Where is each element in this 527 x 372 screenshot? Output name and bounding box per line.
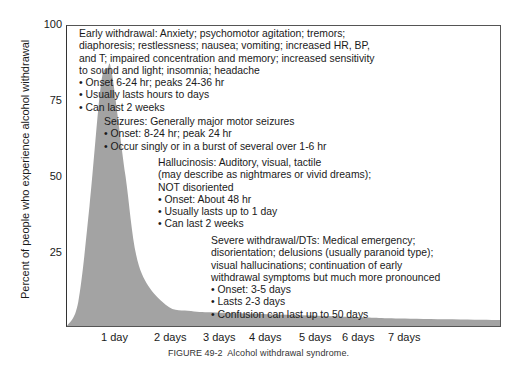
annotation-line: Early withdrawal: Anxiety; psychomotor a… (79, 28, 375, 40)
x-tick-3-days: 3 days (203, 331, 235, 343)
x-tick-7-days: 7 days (388, 331, 420, 343)
annotation-early-withdrawal: Early withdrawal: Anxiety; psychomotor a… (79, 28, 375, 114)
annotation-line: • Can last 2 weeks (79, 102, 375, 114)
x-tick-4-days: 4 days (249, 331, 281, 343)
annotation-hallucinosis: Hallucinosis: Auditory, visual, tactile … (158, 157, 371, 231)
annotation-line: • Onset 6-24 hr; peaks 24-36 hr (79, 77, 375, 89)
x-tick-6-days: 6 days (342, 331, 374, 343)
annotation-line: and T; impaired concentration and memory… (79, 53, 375, 65)
annotation-line: • Confusion can last up to 50 days (211, 309, 440, 321)
y-tick-100: 100 (40, 18, 62, 30)
annotation-line: • Occur singly or in a burst of several … (104, 141, 327, 153)
annotation-line: • Onset: 3-5 days (211, 284, 440, 296)
annotation-seizures: Seizures: Generally major motor seizures… (104, 116, 327, 153)
annotation-line: • Can last 2 weeks (158, 218, 371, 230)
x-tick-5-days: 5 days (299, 331, 331, 343)
annotation-line: visual hallucinations; continuation of e… (211, 260, 440, 272)
annotation-line: disorientation; delusions (usually paran… (211, 247, 440, 259)
annotation-line: • Onset: About 48 hr (158, 194, 371, 206)
annotation-line: • Usually lasts hours to days (79, 89, 375, 101)
x-tick-2-days: 2 days (154, 331, 186, 343)
annotation-line: NOT disoriented (158, 182, 371, 194)
figure-label: FIGURE 49-2 (168, 348, 223, 358)
annotation-line: • Onset: 8-24 hr; peak 24 hr (104, 128, 327, 140)
y-tick-50: 50 (40, 170, 62, 182)
x-tick-1-day: 1 day (101, 331, 128, 343)
annotation-severe-withdrawal: Severe withdrawal/DTs: Medical emergency… (211, 235, 440, 321)
y-tick-75: 75 (40, 94, 62, 106)
y-axis-label: Percent of people who experience alcohol… (19, 59, 31, 299)
annotation-line: Severe withdrawal/DTs: Medical emergency… (211, 235, 440, 247)
annotation-line: Hallucinosis: Auditory, visual, tactile (158, 157, 371, 169)
figure-caption: FIGURE 49-2 Alcohol withdrawal syndrome. (168, 348, 349, 358)
annotation-line: diaphoresis; restlessness; nausea; vomit… (79, 40, 375, 52)
annotation-line: Seizures: Generally major motor seizures (104, 116, 327, 128)
annotation-line: withdrawal symptoms but much more pronou… (211, 272, 440, 284)
annotation-line: • Usually lasts up to 1 day (158, 206, 371, 218)
annotation-line: • Lasts 2-3 days (211, 296, 440, 308)
y-tick-25: 25 (40, 246, 62, 258)
figure-caption-text: Alcohol withdrawal syndrome. (227, 348, 349, 358)
annotation-line: to sound and light; insomnia; headache (79, 65, 375, 77)
annotation-line: (may describe as nightmares or vivid dre… (158, 169, 371, 181)
